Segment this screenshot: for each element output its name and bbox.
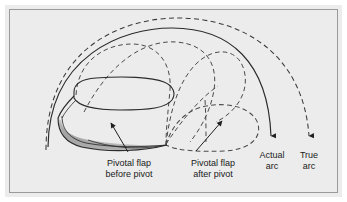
- label-true-arc-line2: arc: [303, 161, 316, 171]
- rotation-path-dashed: [76, 42, 245, 144]
- flap-leading-edge: [58, 96, 74, 118]
- rotation-path-1: [76, 44, 170, 144]
- label-before-pivot-line1: Pivotal flap: [107, 158, 151, 168]
- diagram-labels: Pivotal flap before pivot Pivotal flap a…: [105, 150, 318, 179]
- label-after-pivot-line1: Pivotal flap: [191, 158, 235, 168]
- label-true-arc-line1: True: [300, 150, 318, 160]
- label-actual-arc-line2: arc: [266, 161, 279, 171]
- rotation-path-2: [84, 42, 215, 142]
- flap-leading-edge-inner: [62, 100, 76, 118]
- actual-arc: [48, 28, 271, 147]
- label-actual-arc-line1: Actual: [259, 150, 284, 160]
- label-before-pivot-line2: before pivot: [105, 169, 153, 179]
- true-arc: [46, 18, 309, 150]
- pivotal-flap-diagram: Pivotal flap before pivot Pivotal flap a…: [0, 0, 347, 202]
- flap-before-pivot: [58, 77, 174, 151]
- leader-after-pivot: [196, 121, 222, 151]
- figure-root: Pivotal flap before pivot Pivotal flap a…: [0, 0, 347, 202]
- label-after-pivot-line2: after pivot: [193, 169, 233, 179]
- flap-body-outline: [74, 77, 174, 110]
- flap-after-pivot: [166, 105, 259, 152]
- rotation-path-3: [166, 52, 245, 144]
